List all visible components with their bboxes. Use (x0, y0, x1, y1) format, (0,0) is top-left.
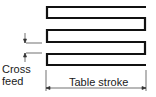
cross-feed-label-line1: Cross (2, 64, 31, 75)
arrow-right-icon (142, 87, 146, 90)
arrow-left-icon (46, 87, 50, 90)
cross-feed-indicator (24, 33, 43, 62)
arrow-up-icon (24, 53, 27, 57)
arrow-down-icon (24, 39, 27, 43)
table-stroke-label: Table stroke (69, 77, 128, 88)
cross-feed-label-line2: feed (2, 76, 23, 87)
traverse-path (47, 7, 146, 65)
